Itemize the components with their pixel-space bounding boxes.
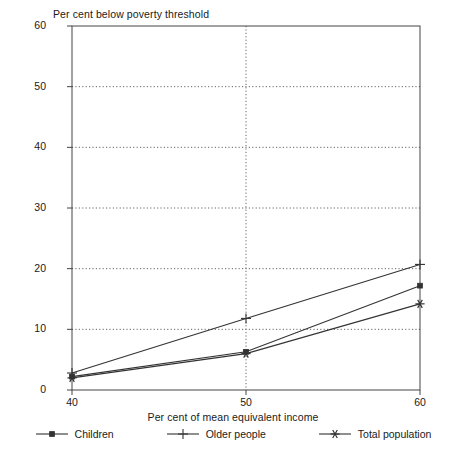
poverty-threshold-line-chart: Per cent below poverty threshold 0102030… xyxy=(0,0,466,462)
figure-caption xyxy=(8,452,458,461)
legend-label: Total population xyxy=(358,428,432,440)
legend-entry-older-people[interactable]: Older people xyxy=(166,428,266,440)
chart-legend: ChildrenOlder peopleTotal population xyxy=(0,428,466,440)
star-marker-icon xyxy=(318,428,352,440)
gridlines xyxy=(72,26,420,390)
legend-entry-total-population[interactable]: Total population xyxy=(318,428,432,440)
plus-marker-icon xyxy=(166,428,200,440)
axis-tick-marks xyxy=(67,26,420,395)
data-point-50 xyxy=(241,313,251,323)
x-axis-title: Per cent of mean equivalent income xyxy=(0,411,466,423)
data-point-60 xyxy=(415,259,425,269)
series-children xyxy=(70,283,423,379)
data-point-60 xyxy=(418,283,423,288)
legend-label: Older people xyxy=(206,428,266,440)
plus-marker-icon xyxy=(178,429,188,439)
legend-entry-children[interactable]: Children xyxy=(35,428,114,440)
square-marker-icon xyxy=(35,428,69,440)
plot-area xyxy=(0,0,466,462)
star-marker-icon xyxy=(330,430,339,438)
legend-label: Children xyxy=(75,428,114,440)
square-marker-icon xyxy=(49,432,54,437)
